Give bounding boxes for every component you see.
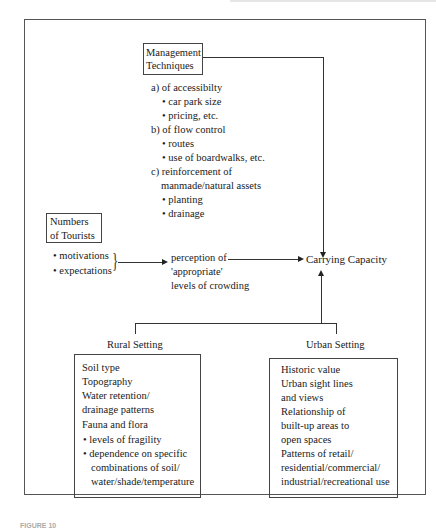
bullet-routes: • routes [162, 137, 194, 150]
bullet-text: motivations [59, 250, 109, 261]
management-title-line2: Techniques [146, 59, 194, 72]
arrow-right-icon [298, 256, 304, 262]
bullet-fragility: • levels of fragility [83, 433, 162, 446]
management-item-b: b) of flow control [151, 123, 225, 136]
bullet-text: dependence on specific [89, 448, 187, 459]
connector-settings-vertical [321, 275, 322, 324]
tourists-title-line1: Numbers [50, 215, 89, 228]
arrow-right-icon [162, 259, 168, 265]
rural-line-3: Water retention/ [82, 389, 150, 402]
urban-line-2: Urban sight lines [281, 377, 353, 390]
connector-management-horizontal [203, 57, 324, 58]
rural-continuation-1: combinations of soil/ [91, 461, 180, 474]
bullet-planting: • planting [162, 193, 203, 206]
urban-line-9: industrial/recreational use [281, 475, 390, 488]
bullet-text: pricing, etc. [168, 110, 218, 121]
tourists-title-line2: of Tourists [50, 229, 95, 242]
rural-line-4: drainage patterns [82, 403, 154, 416]
carrying-capacity-label: Carrying Capacity [306, 253, 387, 266]
bullet-text: planting [168, 194, 202, 205]
connector-settings-horizontal [135, 323, 337, 324]
top-edge-shadow [230, 0, 436, 2]
urban-line-1: Historic value [281, 363, 340, 376]
rural-continuation-2: water/shade/temperature [91, 475, 194, 488]
bullet-text: car park size [168, 96, 221, 107]
rural-setting-label: Rural Setting [107, 338, 163, 351]
connector-management-vertical [323, 57, 324, 253]
bullet-text: routes [168, 138, 194, 149]
brace-icon: } [112, 249, 118, 271]
bullet-expectations: • expectations [53, 264, 112, 277]
bullet-text: use of boardwalks, etc. [168, 152, 265, 163]
bullet-text: drainage [168, 208, 204, 219]
urban-setting-label: Urban Setting [306, 338, 365, 351]
figure-caption: FIGURE 10 [20, 522, 56, 529]
perception-line3: levels of crowding [171, 279, 249, 292]
connector-urban-drop [336, 323, 337, 334]
management-item-c-line2: manmade/natural assets [161, 179, 261, 192]
connector-perception-capacity [228, 259, 299, 260]
perception-line2: 'appropriate' [171, 265, 223, 278]
rural-line-5: Fauna and flora [82, 418, 148, 431]
rural-line-1: Soil type [82, 361, 120, 374]
rural-line-2: Topography [82, 375, 133, 388]
urban-line-5: built-up areas to [281, 419, 349, 432]
urban-line-3: and views [281, 391, 323, 404]
urban-line-4: Relationship of [281, 405, 345, 418]
bullet-drainage: • drainage [162, 207, 204, 220]
connector-tourists-perception [118, 262, 163, 263]
bullet-dependence: • dependence on specific [83, 447, 187, 460]
management-item-a: a) of accessibilty [151, 81, 222, 94]
management-title-line1: Management [146, 46, 201, 59]
management-item-c-line1: c) reinforcement of [151, 165, 232, 178]
perception-line1: perception of [171, 251, 227, 264]
urban-line-7: Patterns of retail/ [281, 447, 353, 460]
bullet-pricing: • pricing, etc. [162, 109, 218, 122]
bullet-boardwalks: • use of boardwalks, etc. [162, 151, 265, 164]
urban-line-6: open spaces [281, 433, 331, 446]
bullet-car-park: • car park size [162, 95, 221, 108]
bullet-motivations: • motivations [53, 249, 109, 262]
connector-rural-drop [135, 323, 136, 334]
bullet-text: expectations [59, 265, 111, 276]
bullet-text: levels of fragility [89, 434, 161, 445]
urban-line-8: residential/commercial/ [281, 461, 380, 474]
